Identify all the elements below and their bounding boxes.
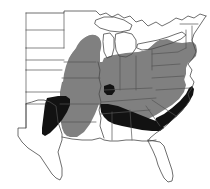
range-map-figure — [0, 0, 210, 189]
map-canvas — [0, 0, 210, 189]
